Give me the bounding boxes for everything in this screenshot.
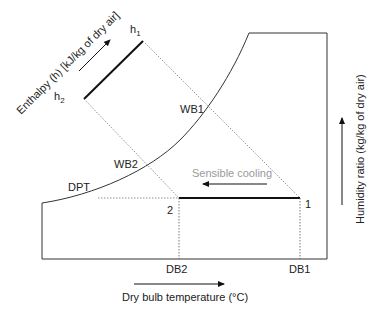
point-2-label: 2 bbox=[167, 204, 173, 216]
point-1-label: 1 bbox=[305, 198, 311, 210]
humidity-ratio-axis-label: Humidity ratio (kg/kg of dry air) bbox=[354, 74, 366, 224]
wb2-label: WB2 bbox=[114, 158, 138, 170]
h1-label: h1 bbox=[130, 23, 141, 38]
enthalpy-axis-label: Enthalpy (h) [kJ/kg of dry air] bbox=[14, 9, 121, 116]
psychrometric-diagram: Enthalpy (h) [kJ/kg of dry air] h1 h2 WB… bbox=[0, 0, 377, 313]
db1-label: DB1 bbox=[289, 263, 310, 275]
enthalpy-scale-line bbox=[84, 41, 143, 99]
chart-frame bbox=[42, 33, 327, 259]
wb1-label: WB1 bbox=[180, 103, 204, 115]
wet-bulb-line-2 bbox=[84, 99, 179, 198]
sensible-cooling-label: Sensible cooling bbox=[192, 167, 272, 179]
dpt-label: DPT bbox=[68, 181, 90, 193]
dry-bulb-axis-label: Dry bulb temperature (°C) bbox=[122, 291, 248, 303]
h2-label: h2 bbox=[54, 90, 65, 105]
db2-label: DB2 bbox=[166, 263, 187, 275]
